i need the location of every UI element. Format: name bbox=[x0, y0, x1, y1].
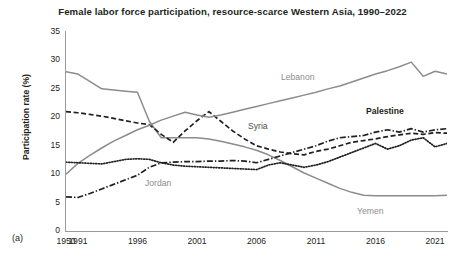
chart-figure: Female labor force participation, resour… bbox=[0, 0, 465, 266]
y-tick-label: 30 bbox=[34, 54, 60, 64]
y-axis-title: Participation rate (%) bbox=[21, 47, 31, 187]
series-label-syria: Syria bbox=[248, 121, 268, 131]
plot-area bbox=[66, 32, 447, 231]
panel-label: (a) bbox=[12, 233, 23, 243]
x-tick-label: 2016 bbox=[353, 236, 399, 246]
y-tick-label: 35 bbox=[34, 26, 60, 36]
x-tick-label: 1991 bbox=[55, 236, 101, 246]
y-tick-label: 10 bbox=[34, 168, 60, 178]
x-tick-label: 2006 bbox=[234, 236, 280, 246]
series-label-lebanon: Lebanon bbox=[281, 72, 314, 82]
page-title: Female labor force participation, resour… bbox=[0, 6, 465, 17]
line-series-jordan bbox=[66, 138, 447, 170]
y-tick-label: 25 bbox=[34, 83, 60, 93]
x-tick-label: 2001 bbox=[174, 236, 220, 246]
y-tick-label: 15 bbox=[34, 140, 60, 150]
line-series-lebanon bbox=[66, 62, 447, 174]
x-tick-label: 2011 bbox=[293, 236, 339, 246]
series-lines bbox=[66, 32, 447, 231]
series-label-palestine: Palestine bbox=[366, 106, 404, 116]
series-label-yemen: Yemen bbox=[357, 206, 383, 216]
x-axis-line bbox=[65, 231, 448, 232]
y-tick-label: 20 bbox=[34, 111, 60, 121]
line-series-yemen bbox=[66, 72, 447, 196]
line-series-palestine bbox=[66, 129, 447, 198]
x-tick-label: 1996 bbox=[114, 236, 160, 246]
y-tick-label: 5 bbox=[34, 197, 60, 207]
y-tick-label: 0 bbox=[34, 225, 60, 235]
x-tick-label: 2021 bbox=[412, 236, 458, 246]
series-label-jordan: Jordan bbox=[145, 178, 171, 188]
